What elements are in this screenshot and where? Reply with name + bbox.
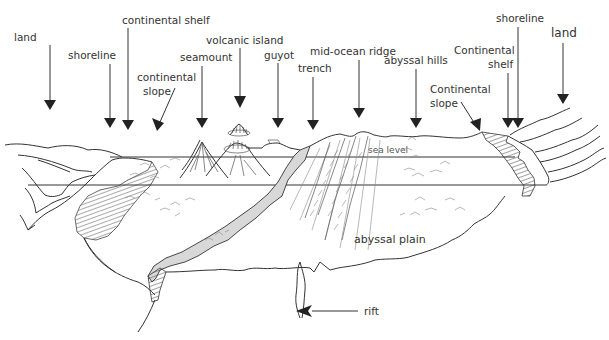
abyssal-hills [125,137,465,240]
annotation-rift: rift [296,305,379,317]
trench [138,146,310,332]
annotation-volcanic-island: volcanic island [206,34,284,108]
annotation-continental-slope-right: Continental slope [430,83,491,131]
label-shoreline-right: shoreline [496,12,544,24]
annotation-land-right: land [551,26,577,104]
label-abyssal-plain: abyssal plain [354,233,426,246]
label-trench: trench [298,62,332,74]
annotation-shoreline-right: shoreline [496,12,544,128]
label-land-left: land [14,31,37,43]
label-rift: rift [364,305,379,317]
ocean-floor-diagram: sea level [0,0,609,340]
seamount [180,140,228,178]
label-continental-slope-right-1: Continental [430,83,491,95]
label-continental-slope-right-2: slope [430,97,458,109]
annotation-land-left: land [14,31,56,110]
continental-slope-right [482,132,535,196]
label-volcanic-island: volcanic island [206,34,284,46]
label-continental-shelf-right-1: Continental [454,44,515,56]
basin-edge-right [338,196,505,268]
label-continental-slope-left-2: slope [143,85,171,97]
label-continental-shelf-left: continental shelf [122,14,210,26]
label-continental-shelf-right-2: shelf [488,58,514,70]
label-continental-slope-left-1: continental [137,71,196,83]
annotation-shoreline-left: shoreline [68,49,116,128]
continental-slope-left [75,158,158,272]
annotation-continental-slope-left: continental slope [137,71,196,131]
basin-edge-left [84,238,155,295]
label-abyssal-hills: abyssal hills [384,54,448,66]
ocean-floor-right-edge [420,132,482,138]
label-seamount: seamount [180,51,232,63]
label-land-right: land [551,26,577,40]
annotation-trench: trench [298,62,332,130]
annotation-seamount: seamount [180,51,232,128]
guyot [248,140,300,150]
label-guyot: guyot [264,49,294,61]
annotation-guyot: guyot [264,49,294,128]
label-shoreline-left: shoreline [68,49,116,61]
